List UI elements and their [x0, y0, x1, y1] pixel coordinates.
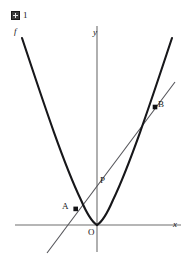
point-marker-b	[153, 105, 158, 110]
graph-canvas	[0, 0, 186, 263]
point-marker-a	[73, 207, 78, 212]
figure-container: 図 1 f y x A B P O	[0, 0, 186, 263]
x-axis-label: x	[173, 220, 177, 229]
point-label-b: B	[158, 100, 164, 109]
y-axis-label: y	[93, 28, 97, 37]
origin-label: O	[88, 228, 95, 237]
point-label-a: A	[62, 202, 69, 211]
point-label-p: P	[100, 176, 105, 185]
curve-label-f: f	[14, 27, 17, 36]
